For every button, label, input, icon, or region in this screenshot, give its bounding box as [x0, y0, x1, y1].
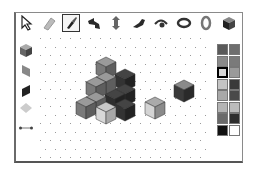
cube — [96, 102, 116, 124]
cube — [115, 99, 135, 121]
cube — [145, 97, 165, 119]
cube-scene — [0, 0, 256, 175]
cube — [174, 80, 194, 102]
cube — [76, 97, 96, 119]
